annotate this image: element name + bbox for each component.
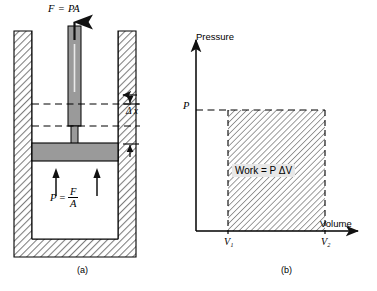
y-tick-label-p: P bbox=[183, 100, 189, 111]
cylinder-assembly bbox=[14, 22, 140, 257]
piston-stem bbox=[71, 126, 78, 144]
piston-plate bbox=[32, 143, 118, 161]
pressure-formula-fraction: F A bbox=[68, 186, 78, 209]
figure-canvas bbox=[0, 0, 377, 291]
pressure-formula: P = F A bbox=[50, 186, 78, 209]
panel-a-caption: (a) bbox=[77, 265, 88, 275]
x-axis-label: Volume bbox=[320, 218, 352, 229]
pressure-formula-lhs: P = bbox=[50, 192, 66, 203]
y-axis-label: Pressure bbox=[196, 31, 234, 42]
physics-figure: F = PA Δ x P = F A (a) Pressure Volume P… bbox=[0, 0, 377, 291]
pv-diagram bbox=[196, 40, 358, 234]
displacement-label: Δ x bbox=[126, 106, 138, 116]
panel-b-caption: (b) bbox=[281, 265, 292, 275]
fraction-denominator: A bbox=[68, 198, 78, 209]
force-label: F = PA bbox=[48, 3, 80, 14]
x-tick-label-v2: V₂ bbox=[321, 236, 331, 247]
fraction-numerator: F bbox=[68, 186, 78, 198]
x-tick-label-v1: V₁ bbox=[224, 236, 234, 247]
work-annotation: Work = P ΔV bbox=[232, 164, 295, 177]
